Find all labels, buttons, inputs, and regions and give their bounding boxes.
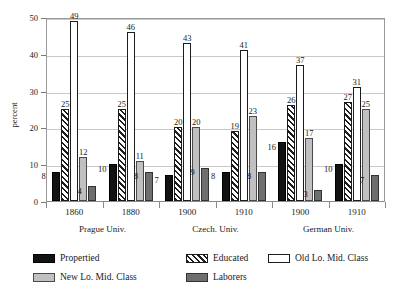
legend-label: New Lo. Mid. Class bbox=[60, 272, 137, 283]
bar-value-label: 20 bbox=[192, 118, 201, 127]
legend-label: Propertied bbox=[60, 253, 100, 264]
legend-label: Old Lo. Mid. Class bbox=[295, 253, 368, 264]
y-tick-label: 0 bbox=[34, 198, 38, 207]
chart-title bbox=[0, 0, 409, 1]
bar-old-lo-mid-class-1860-0 bbox=[70, 21, 78, 201]
y-tick-label: 20 bbox=[30, 124, 39, 133]
bar-new-lo-mid-class-1900-2 bbox=[192, 127, 200, 201]
bar-value-label: 8 bbox=[42, 172, 46, 181]
bar-value-label: 7 bbox=[360, 176, 364, 185]
legend-item-old-lo-mid-class[interactable]: Old Lo. Mid. Class bbox=[268, 248, 368, 261]
bar-new-lo-mid-class-1910-3 bbox=[249, 116, 257, 201]
bar-value-label: 9 bbox=[191, 168, 195, 177]
bar-value-label: 8 bbox=[211, 172, 215, 181]
y-tick-label: 50 bbox=[30, 14, 39, 23]
legend-item-new-lo-mid-class[interactable]: New Lo. Mid. Class bbox=[33, 267, 137, 280]
legend-item-laborers[interactable]: Laborers bbox=[186, 267, 247, 280]
bar-value-label: 12 bbox=[79, 148, 88, 157]
bar-old-lo-mid-class-1900-4 bbox=[296, 65, 304, 201]
x-tick-label-1: 1880 bbox=[122, 207, 140, 217]
bar-value-label: 27 bbox=[344, 93, 353, 102]
bar-propertied-1860-0 bbox=[52, 172, 60, 201]
legend-swatch-icon bbox=[33, 254, 55, 263]
y-axis: percent 01020304050 bbox=[0, 18, 46, 203]
bar-value-label: 10 bbox=[98, 165, 107, 174]
bar-laborers-1860-0 bbox=[88, 186, 96, 201]
bar-value-label: 25 bbox=[362, 100, 371, 109]
bar-value-label: 8 bbox=[134, 172, 138, 181]
bar-value-label: 31 bbox=[353, 78, 362, 87]
bar-educated-1910-5 bbox=[344, 102, 352, 201]
bar-value-label: 37 bbox=[296, 56, 305, 65]
bar-laborers-1900-4 bbox=[314, 190, 322, 201]
bar-value-label: 20 bbox=[174, 118, 183, 127]
bar-value-label: 46 bbox=[127, 23, 136, 32]
x-tick-mark bbox=[272, 202, 273, 208]
bar-laborers-1900-2 bbox=[201, 168, 209, 201]
y-axis-label: percent bbox=[9, 85, 19, 145]
chart-legend: PropertiedEducatedOld Lo. Mid. ClassNew … bbox=[0, 246, 409, 288]
bar-value-label: 10 bbox=[324, 165, 333, 174]
bar-value-label: 11 bbox=[136, 152, 144, 161]
x-tick-mark bbox=[329, 202, 330, 208]
bar-value-label: 49 bbox=[70, 12, 79, 21]
gridline bbox=[47, 56, 384, 57]
gridline bbox=[47, 93, 384, 94]
bar-propertied-1900-2 bbox=[165, 175, 173, 201]
x-tick-mark bbox=[103, 202, 104, 208]
plot-area: 8254912410254611872043209819412381626371… bbox=[46, 18, 385, 202]
x-tick-label-0: 1860 bbox=[65, 207, 83, 217]
x-tick-mark bbox=[46, 202, 47, 208]
y-tick-label: 30 bbox=[30, 87, 39, 96]
x-tick-mark bbox=[385, 202, 386, 208]
bar-laborers-1880-1 bbox=[145, 172, 153, 201]
x-tick-label-2: 1900 bbox=[178, 207, 196, 217]
gridline bbox=[47, 19, 384, 20]
bar-value-label: 43 bbox=[183, 34, 192, 43]
legend-label: Educated bbox=[213, 253, 248, 264]
bar-educated-1900-4 bbox=[287, 105, 295, 201]
bar-value-label: 4 bbox=[78, 187, 82, 196]
bar-educated-1880-1 bbox=[118, 109, 126, 201]
bar-value-label: 3 bbox=[304, 190, 308, 199]
x-tick-label-3: 1910 bbox=[235, 207, 253, 217]
x-tick-label-5: 1910 bbox=[348, 207, 366, 217]
group-label-1: Czech. Univ. bbox=[192, 224, 239, 234]
legend-label: Laborers bbox=[213, 272, 247, 283]
bar-value-label: 23 bbox=[249, 107, 258, 116]
y-tick-label: 40 bbox=[30, 51, 39, 60]
bar-value-label: 16 bbox=[268, 143, 277, 152]
bar-value-label: 41 bbox=[240, 41, 249, 50]
bar-value-label: 19 bbox=[231, 122, 240, 131]
bar-value-label: 7 bbox=[155, 176, 159, 185]
bar-value-label: 25 bbox=[118, 100, 127, 109]
legend-swatch-icon bbox=[268, 254, 290, 263]
group-label-2: German Univ. bbox=[303, 224, 354, 234]
legend-item-educated[interactable]: Educated bbox=[186, 248, 248, 261]
bar-propertied-1900-4 bbox=[278, 142, 286, 201]
bar-value-label: 25 bbox=[61, 100, 70, 109]
bar-educated-1860-0 bbox=[61, 109, 69, 201]
legend-swatch-icon bbox=[33, 273, 55, 282]
bar-educated-1910-3 bbox=[231, 131, 239, 201]
x-tick-mark bbox=[216, 202, 217, 208]
bar-laborers-1910-3 bbox=[258, 172, 266, 201]
x-tick-label-4: 1900 bbox=[291, 207, 309, 217]
legend-swatch-icon bbox=[186, 273, 208, 282]
bar-new-lo-mid-class-1910-5 bbox=[362, 109, 370, 201]
bar-educated-1900-2 bbox=[174, 127, 182, 201]
bar-value-label: 8 bbox=[247, 172, 251, 181]
gridline bbox=[47, 129, 384, 130]
x-tick-mark bbox=[159, 202, 160, 208]
bar-value-label: 26 bbox=[287, 96, 296, 105]
bar-propertied-1910-3 bbox=[222, 172, 230, 201]
group-label-0: Prague Univ. bbox=[79, 224, 126, 234]
y-tick-label: 10 bbox=[30, 161, 39, 170]
bar-propertied-1880-1 bbox=[109, 164, 117, 201]
bar-value-label: 17 bbox=[305, 129, 314, 138]
bar-old-lo-mid-class-1900-2 bbox=[183, 43, 191, 201]
chart-figure: percent 01020304050 82549124102546118720… bbox=[0, 0, 409, 292]
legend-item-propertied[interactable]: Propertied bbox=[33, 248, 100, 261]
legend-swatch-icon bbox=[186, 254, 208, 263]
bar-laborers-1910-5 bbox=[371, 175, 379, 201]
